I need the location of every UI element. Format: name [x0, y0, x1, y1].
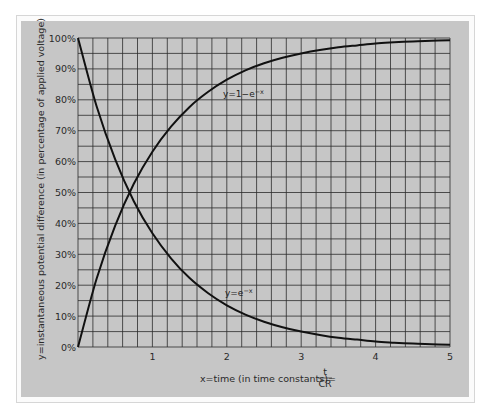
x-tick-label: 3 — [298, 351, 304, 362]
y-tick-label: 90% — [55, 63, 76, 74]
y-axis-ticks: 0%10%20%30%40%50%60%70%80%90%100% — [49, 33, 76, 353]
x-tick-label: 1 — [149, 351, 155, 362]
x-label-numerator: t — [323, 366, 327, 377]
y-tick-label: 30% — [55, 249, 76, 260]
charge-curve-label: y=1−e−x — [223, 88, 264, 99]
x-tick-label: 5 — [447, 351, 453, 362]
y-tick-label: 10% — [55, 311, 76, 322]
y-tick-label: 100% — [49, 33, 76, 44]
x-tick-label: 4 — [373, 351, 379, 362]
x-axis-label: x=time (in time constants)= — [200, 373, 336, 384]
x-axis-ticks: 12345 — [149, 351, 453, 362]
y-axis-label: y=instantaneous potential difference (in… — [35, 18, 46, 360]
y-tick-label: 50% — [55, 187, 76, 198]
y-tick-label: 80% — [55, 94, 76, 105]
grid — [78, 38, 450, 347]
discharge-curve-label: y=e−x — [225, 287, 253, 298]
y-tick-label: 60% — [55, 156, 76, 167]
x-label-denominator: CR — [318, 378, 332, 389]
x-tick-label: 2 — [224, 351, 230, 362]
y-tick-label: 70% — [55, 125, 76, 136]
y-tick-label: 0% — [61, 342, 76, 353]
y-tick-label: 40% — [55, 218, 76, 229]
chart-svg: 0%10%20%30%40%50%60%70%80%90%100% 12345 … — [0, 0, 489, 416]
y-tick-label: 20% — [55, 280, 76, 291]
